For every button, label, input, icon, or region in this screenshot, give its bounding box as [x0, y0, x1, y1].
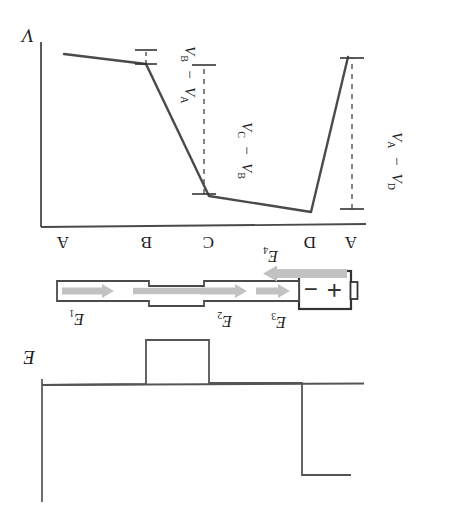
point-label-A-right: A: [57, 234, 69, 251]
field-arrow-E2-tail: [133, 288, 201, 294]
battery-minus-sign: −: [304, 277, 318, 302]
point-label-C: C: [203, 234, 214, 251]
bottom-plot-axis-label: V: [22, 26, 34, 45]
point-label-B: B: [141, 234, 152, 251]
point-label-D: D: [304, 234, 316, 251]
field-label-E4: E4: [263, 245, 278, 264]
figure-root: E E1 E2 E3 E4 + − A D C B A V VA − VD VC…: [0, 0, 454, 512]
top-plot-group: [42, 340, 364, 502]
field-label-E1: E1: [69, 308, 84, 327]
top-plot-axis-label: E: [23, 348, 35, 367]
annotation-label-VC-minus-VB: VC − VB: [236, 122, 254, 179]
battery-terminal-nub: [351, 282, 358, 299]
point-label-A-left: A: [345, 234, 357, 251]
bottom-plot-group: [41, 42, 366, 227]
annotation-label-VA-minus-VD: VA − VD: [386, 132, 404, 190]
figure-vector: [0, 0, 454, 512]
bottom-plot-horizontal-axis: [41, 224, 366, 227]
bottom-plot-potential-curve: [64, 54, 348, 212]
field-label-E3: E3: [271, 311, 286, 330]
field-label-E2: E2: [217, 310, 232, 329]
annotation-label-VB-minus-VA: VB − VA: [179, 46, 197, 103]
annotation-VA-minus-VD: [340, 58, 364, 209]
top-plot-step-curve: [42, 340, 351, 475]
battery-plus-sign: +: [327, 276, 342, 303]
